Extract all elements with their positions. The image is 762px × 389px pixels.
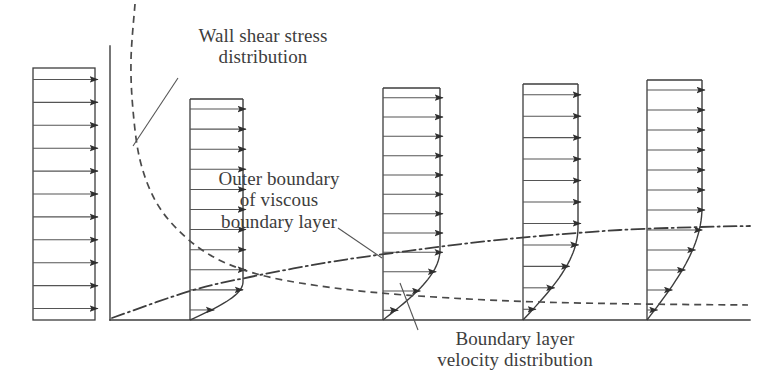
boundary-layer-velocity-distribution-label-line-1: Boundary layer (410, 328, 620, 349)
outer-boundary-of-viscous-boundary-layer-label-line-2: of viscous (198, 189, 360, 210)
outer-boundary-of-viscous-boundary-layer-label: Outer boundaryof viscousboundary layer (198, 168, 360, 232)
uniform-inlet-velocity-profile (33, 68, 98, 320)
wall-shear-stress-distribution-label-leader-line (133, 78, 178, 146)
station-velocity-envelope (647, 80, 702, 320)
outer-boundary-of-viscous-boundary-layer-label-line-1: Outer boundary (198, 168, 360, 189)
diagram-canvas (0, 0, 762, 389)
wall-shear-stress-distribution-label: Wall shear stressdistribution (168, 25, 358, 68)
station-4 (647, 80, 705, 320)
station-3 (523, 84, 581, 320)
boundary-layer-velocity-distribution-label-leader-line (400, 283, 418, 330)
boundary-layer-diagram: Wall shear stressdistributionOuter bound… (0, 0, 762, 389)
boundary-layer-velocity-distribution-label: Boundary layervelocity distribution (410, 328, 620, 371)
station-2 (383, 88, 443, 320)
outer-boundary-of-viscous-boundary-layer-label-line-3: boundary layer (198, 211, 360, 232)
boundary-layer-velocity-distribution-label-line-2: velocity distribution (410, 349, 620, 370)
outer-boundary-of-viscous-boundary-layer-label-leader-line (338, 228, 382, 258)
station-velocity-envelope (383, 88, 440, 320)
wall-shear-stress-distribution-label-line-2: distribution (168, 46, 358, 67)
wall-shear-stress-distribution-label-line-1: Wall shear stress (168, 25, 358, 46)
